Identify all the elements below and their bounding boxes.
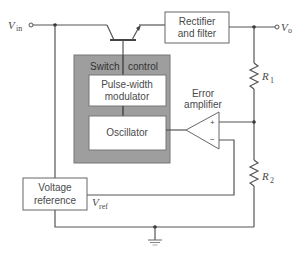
oscillator-block: Oscillator (89, 116, 166, 150)
r1-label: R (261, 70, 269, 82)
svg-text:ref: ref (99, 202, 108, 211)
svg-text:modulator: modulator (105, 91, 150, 102)
svg-text:−: − (210, 135, 215, 144)
svg-text:Error: Error (192, 88, 215, 99)
svg-text:Oscillator: Oscillator (106, 127, 148, 138)
regulator-diagram: V in Rectifier and filter V o R 1 R 2 (0, 0, 301, 257)
r1-resistor-icon (250, 63, 258, 89)
svg-text:2: 2 (270, 176, 274, 185)
voltage-reference-block: Voltage reference (23, 178, 87, 210)
ground-icon (148, 227, 162, 245)
svg-text:Pulse-width: Pulse-width (101, 79, 153, 90)
vin-terminal: V in (8, 19, 33, 33)
svg-text:Rectifier: Rectifier (179, 16, 216, 27)
svg-text:+: + (210, 118, 215, 127)
rectifier-filter-block: Rectifier and filter (165, 12, 229, 43)
svg-text:Switch: Switch (90, 61, 119, 72)
vin-subscript: in (16, 24, 22, 33)
vin-label: V (8, 19, 16, 31)
r2-resistor-icon (250, 160, 258, 186)
vo-terminal: V o (275, 21, 292, 35)
svg-text:control: control (128, 61, 158, 72)
svg-text:Voltage: Voltage (38, 182, 72, 193)
svg-text:reference: reference (34, 195, 77, 206)
svg-text:and filter: and filter (178, 28, 217, 39)
pwm-block: Pulse-width modulator (89, 75, 166, 106)
ground-wire (55, 210, 254, 227)
r2-label: R (261, 170, 269, 182)
vo-subscript: o (288, 26, 292, 35)
svg-text:amplifier: amplifier (184, 99, 222, 110)
svg-text:1: 1 (270, 76, 274, 85)
error-amplifier-icon: Error amplifier + − (184, 88, 222, 149)
